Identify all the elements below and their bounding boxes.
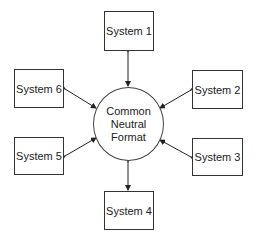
system-6-box: System 6	[14, 69, 64, 108]
system-5-label: System 5	[16, 150, 62, 162]
hub-line-2: Neutral	[111, 118, 146, 131]
system-1-box: System 1	[104, 11, 154, 51]
system-5-box: System 5	[14, 137, 64, 175]
arrow-system-5	[65, 138, 96, 156]
system-3-box: System 3	[192, 138, 243, 176]
system-4-box: System 4	[104, 191, 154, 230]
system-4-label: System 4	[106, 205, 152, 217]
hub-line-1: Common	[106, 105, 151, 118]
system-1-label: System 1	[106, 25, 152, 37]
system-3-label: System 3	[195, 151, 241, 163]
arrow-system-2	[160, 90, 191, 108]
arrow-system-3	[160, 140, 191, 157]
common-neutral-format-hub: Common Neutral Format	[93, 87, 164, 161]
system-2-box: System 2	[192, 70, 243, 109]
hub-line-3: Format	[111, 131, 146, 144]
arrow-system-6	[65, 89, 96, 108]
system-2-label: System 2	[195, 84, 241, 96]
system-6-label: System 6	[16, 83, 62, 95]
